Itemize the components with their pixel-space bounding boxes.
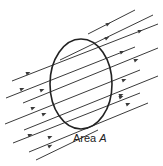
- arrowhead-icon: [119, 49, 125, 54]
- arrowhead-icon: [30, 105, 36, 110]
- area-a-label: Area A: [73, 133, 107, 144]
- area-label-variable: A: [99, 132, 106, 144]
- field-diagram: Area A: [0, 0, 163, 166]
- field-line: [12, 24, 158, 81]
- field-line: [24, 76, 158, 130]
- field-line: [23, 48, 158, 103]
- arrowhead-icon: [137, 28, 143, 33]
- area-label-text: Area: [73, 132, 99, 144]
- field-line: [88, 10, 135, 34]
- arrowhead-icon: [39, 87, 45, 92]
- arrowhead-icon: [41, 111, 47, 116]
- arrowhead-icon: [125, 101, 131, 106]
- arrowhead-icon: [121, 77, 127, 82]
- arrowhead-icon: [105, 21, 111, 26]
- area-a-ellipse: [50, 39, 112, 129]
- arrowhead-icon: [47, 134, 53, 139]
